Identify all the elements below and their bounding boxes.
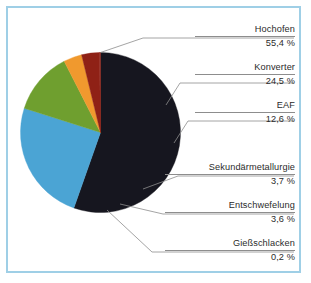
callout-giessschlacken: Gießschlacken 0,2 % — [165, 238, 295, 263]
callout-value-entschwefelung: 3,6 % — [165, 213, 295, 225]
callout-value-eaf: 12,6 % — [195, 113, 295, 125]
callout-value-konverter: 24,5 % — [195, 75, 295, 87]
callout-konverter: Konverter 24,5 % — [195, 62, 295, 87]
callout-eaf: EAF 12,6 % — [195, 100, 295, 125]
callout-entschwefelung: Entschwefelung 3,6 % — [165, 200, 295, 225]
callout-label-eaf: EAF — [195, 100, 295, 113]
callout-value-sekundaermetallurgie: 3,7 % — [165, 175, 295, 187]
pie-chart-figure: Hochofen 55,4 % Konverter 24,5 % EAF 12,… — [0, 0, 311, 283]
callout-label-sekundaermetallurgie: Sekundärmetallurgie — [165, 162, 295, 175]
callout-hochofen: Hochofen 55,4 % — [195, 24, 295, 49]
callout-value-giessschlacken: 0,2 % — [165, 251, 295, 263]
callout-label-giessschlacken: Gießschlacken — [165, 238, 295, 251]
callout-label-konverter: Konverter — [195, 62, 295, 75]
callout-label-entschwefelung: Entschwefelung — [165, 200, 295, 213]
callout-value-hochofen: 55,4 % — [195, 37, 295, 49]
callout-label-hochofen: Hochofen — [195, 24, 295, 37]
pie-slice-group — [20, 53, 180, 213]
callout-sekundaermetallurgie: Sekundärmetallurgie 3,7 % — [165, 162, 295, 187]
